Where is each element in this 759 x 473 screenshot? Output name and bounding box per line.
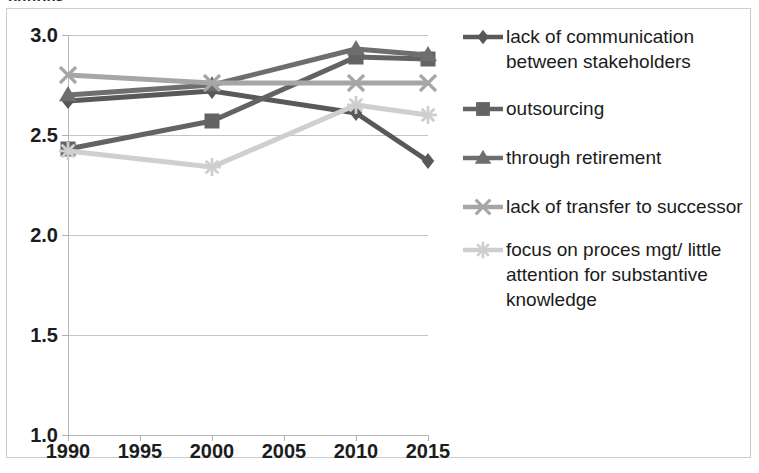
chart-legend: lack of communication between stakeholde…: [462, 24, 747, 314]
plot-area: [68, 35, 428, 435]
x-axis-labels: 199019952000200520102015: [68, 440, 428, 468]
x-tick-label: 2000: [190, 440, 235, 463]
y-tick-label: 1.5: [30, 324, 58, 347]
legend-item-focus-on-process-mgt[interactable]: focus on proces mgt/ little attention fo…: [462, 237, 747, 312]
legend-label: focus on proces mgt/ little attention fo…: [504, 237, 747, 312]
x-tick-label: 2005: [262, 440, 307, 463]
data-point-marker: [205, 114, 220, 129]
y-tick-label: 3.0: [30, 24, 58, 47]
square-marker-icon: [462, 98, 504, 120]
data-point-marker: [419, 106, 437, 124]
data-point-marker: [203, 158, 221, 176]
diamond-marker-icon: [462, 26, 504, 48]
legend-item-lack-of-transfer[interactable]: lack of transfer to successor: [462, 194, 747, 219]
series-layer: [68, 35, 428, 435]
y-axis-labels: 1.01.52.02.53.0: [0, 35, 58, 435]
data-point-marker: [59, 142, 77, 160]
cut-off-heading-text: buttons.: [8, 0, 69, 1]
series-4: [59, 96, 437, 176]
chart-screenshot: buttons. 1.01.52.02.53.0 199019952000200…: [0, 0, 759, 473]
x-tick-label: 1995: [118, 440, 163, 463]
triangle-marker-icon: [462, 147, 504, 169]
x-tick-label: 2015: [406, 440, 451, 463]
legend-item-lack-of-communication[interactable]: lack of communication between stakeholde…: [462, 24, 747, 74]
legend-item-outsourcing[interactable]: outsourcing: [462, 96, 747, 121]
x-marker-icon: [462, 196, 504, 218]
legend-label: outsourcing: [504, 96, 604, 121]
x-tick-label: 1990: [46, 440, 91, 463]
series-3: [60, 67, 436, 91]
legend-label: lack of transfer to successor: [504, 194, 743, 219]
series-2: [59, 40, 437, 101]
x-tick-label: 2010: [334, 440, 379, 463]
legend-label: through retirement: [504, 145, 661, 170]
y-tick-label: 2.0: [30, 224, 58, 247]
data-point-marker: [347, 96, 365, 114]
series-1: [61, 50, 436, 157]
series-line: [68, 57, 428, 149]
y-tick-label: 2.5: [30, 124, 58, 147]
x-axis-line: [68, 435, 428, 436]
asterisk-marker-icon: [462, 239, 504, 261]
legend-label: lack of communication between stakeholde…: [504, 24, 747, 74]
legend-item-through-retirement[interactable]: through retirement: [462, 145, 747, 170]
